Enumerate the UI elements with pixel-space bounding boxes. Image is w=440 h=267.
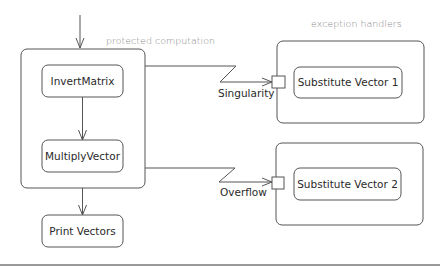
singularity-label: Singularity	[218, 87, 274, 99]
singularity-exception-edge	[145, 66, 272, 86]
protected-computation-caption: protected computation	[106, 35, 215, 46]
exception-input-pin-2[interactable]	[272, 177, 284, 189]
exception-handlers-caption: exception handlers	[311, 18, 402, 29]
exception-input-pin-1[interactable]	[272, 76, 285, 88]
exception-handling-diagram: protected computation exception handlers…	[0, 0, 440, 267]
print-vectors-action[interactable]: Print Vectors	[42, 215, 123, 247]
substitute-vector-2-action[interactable]: Substitute Vector 2	[294, 168, 401, 200]
flow-to-print-vectors	[79, 188, 87, 215]
substitute-vector-2-label: Substitute Vector 2	[297, 178, 398, 190]
print-vectors-label: Print Vectors	[49, 225, 115, 237]
overflow-exception-edge	[145, 168, 272, 186]
incoming-flow-arrow	[76, 15, 84, 48]
multiply-vector-label: MultiplyVector	[45, 150, 121, 162]
overflow-label: Overflow	[220, 186, 267, 198]
substitute-vector-1-label: Substitute Vector 1	[298, 76, 399, 88]
invert-matrix-action[interactable]: InvertMatrix	[42, 65, 123, 97]
multiply-vector-action[interactable]: MultiplyVector	[42, 140, 123, 172]
invert-matrix-label: InvertMatrix	[51, 75, 115, 87]
substitute-vector-1-action[interactable]: Substitute Vector 1	[294, 67, 402, 98]
